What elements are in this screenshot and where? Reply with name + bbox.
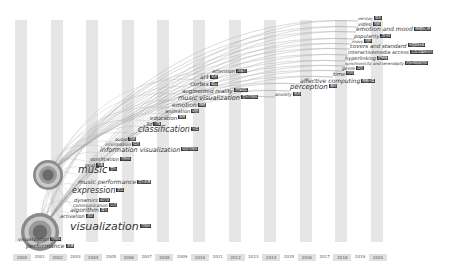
keyword-en: dynamics xyxy=(74,197,98,203)
keyword-zh: 类型 xyxy=(356,66,364,70)
keyword-zh: 电影 xyxy=(364,39,372,43)
keyword-node: hyperlinking超链接 xyxy=(345,56,388,61)
keyword-en: movy xyxy=(352,39,363,44)
keyword-en: art xyxy=(200,73,209,80)
keyword-zh: 情绪和心情 xyxy=(414,27,431,31)
keyword-node: visualization可视化 xyxy=(70,221,151,232)
keyword-en: visualization xyxy=(70,220,139,233)
keyword-node: animation动画 xyxy=(165,109,199,114)
keyword-en: affective computing xyxy=(300,77,360,84)
year-label: 2010 xyxy=(191,254,209,261)
keyword-node: 3d三维 xyxy=(146,122,161,127)
keyword-zh: 音频 xyxy=(128,137,136,141)
year-label: 2000 xyxy=(13,254,31,261)
keyword-zh: 艺术 xyxy=(210,75,218,79)
year-label: 2008 xyxy=(155,254,173,261)
year-label: 2004 xyxy=(84,254,102,261)
year-label: 2014 xyxy=(262,254,280,261)
year-label: 2012 xyxy=(227,254,245,261)
year-label: 2003 xyxy=(66,254,84,259)
keyword-node: communication交流 xyxy=(73,204,117,209)
keyword-node: education教育 xyxy=(150,116,186,122)
keyword-en: performance xyxy=(26,242,65,249)
year-label: 2009 xyxy=(173,254,191,259)
keyword-node: audio音频 xyxy=(115,138,136,143)
keyword-zh: 教育 xyxy=(178,115,186,119)
keyword-en: version xyxy=(358,16,373,21)
year-label: 2007 xyxy=(138,254,156,259)
keyword-node: attention注意力 xyxy=(212,69,247,74)
keyword-en: music performance xyxy=(78,178,136,185)
keyword-en: time xyxy=(333,71,345,77)
keyword-node: affective computing情感计算 xyxy=(300,78,375,84)
keyword-node: interactivemedia access交互式媒体访问 xyxy=(348,50,433,55)
year-label: 2017 xyxy=(316,254,334,259)
keyword-zh: 流行性 xyxy=(380,34,391,38)
year-label: 2018 xyxy=(333,254,351,261)
keyword-en: genre xyxy=(342,66,355,71)
keyword-zh: 可视化 xyxy=(140,224,151,228)
keyword-en: information xyxy=(105,142,131,147)
keyword-zh: 分类 xyxy=(191,127,199,131)
keyword-en: audio xyxy=(115,137,127,142)
keyword-en: hyperlinking xyxy=(345,55,376,61)
keyword-zh: 超链接 xyxy=(377,56,388,60)
year-label: 2015 xyxy=(280,254,298,259)
keyword-zh: 焦虑 xyxy=(293,92,301,96)
keyword-node: information信息 xyxy=(105,143,140,148)
keyword-zh: 皮层 xyxy=(210,82,218,86)
keyword-node: expression表达 xyxy=(72,187,124,195)
keyword-zh: 信息可视化 xyxy=(181,147,198,151)
year-label: 2019 xyxy=(351,254,369,259)
keyword-node: version版本 xyxy=(358,17,382,21)
keyword-zh: 节奏 xyxy=(96,163,104,167)
year-label: 2006 xyxy=(120,254,138,261)
keyword-node: beat节奏 xyxy=(85,164,104,169)
keyword-en: augmented reality xyxy=(182,88,233,94)
keyword-node: music performance音乐表演 xyxy=(78,179,151,185)
keyword-en: sonification xyxy=(90,156,119,162)
keyword-en: synchronicity and serendipity xyxy=(345,61,404,66)
keyword-zh: 三维 xyxy=(153,122,161,126)
keyword-zh: 可听化 xyxy=(120,157,131,161)
keyword-en: interactivemedia access xyxy=(348,49,409,55)
keyword-zh: 激活 xyxy=(86,214,94,218)
keyword-en: attention xyxy=(212,68,235,74)
keyword-zh: 动画 xyxy=(191,109,199,113)
keyword-zh: 版本 xyxy=(374,16,382,20)
year-label: 2020 xyxy=(369,254,387,261)
keyword-zh: 增强现实 xyxy=(234,88,248,92)
year-label: 2001 xyxy=(31,254,49,259)
keyword-node: popularity流行性 xyxy=(354,34,391,39)
keyword-en: education xyxy=(150,115,177,121)
keyword-node: anxiety焦虑 xyxy=(275,93,301,98)
keyword-zh: 音乐 xyxy=(109,167,117,171)
keyword-zh: 动力学 xyxy=(99,198,110,202)
keyword-en: cortex xyxy=(190,80,209,87)
keyword-zh: 交互式媒体访问 xyxy=(410,50,433,54)
keyword-node: art艺术 xyxy=(200,74,218,80)
keyword-zh: 交流 xyxy=(109,203,117,207)
keyword-node: covers and standard封面和标准 xyxy=(350,44,425,50)
timezone-map: visualization可视化visualization可视化performa… xyxy=(0,0,469,279)
keyword-node: time时间 xyxy=(333,72,354,78)
keyword-zh: 情绪 xyxy=(198,103,206,107)
keyword-en: anxiety xyxy=(275,92,292,97)
keyword-en: emotion xyxy=(172,101,197,108)
year-label: 2013 xyxy=(244,254,262,259)
keyword-node: information visualization信息可视化 xyxy=(100,147,198,154)
keyword-zh: 封面和标准 xyxy=(408,43,425,47)
keyword-node: emotion情绪 xyxy=(172,102,206,108)
year-label: 2002 xyxy=(49,254,67,261)
keyword-node: movy电影 xyxy=(352,40,372,44)
keyword-node: dynamics动力学 xyxy=(74,198,110,203)
keyword-en: video xyxy=(358,21,372,27)
keyword-en: animation xyxy=(165,108,190,114)
keyword-zh: 情感计算 xyxy=(361,79,375,83)
year-label: 2016 xyxy=(298,254,316,261)
keyword-zh: 感知 xyxy=(329,84,337,88)
keyword-node: activation激活 xyxy=(60,214,94,219)
keyword-en: music visualization xyxy=(178,94,240,102)
keyword-zh: 时间 xyxy=(346,71,354,75)
keyword-zh: 信息 xyxy=(132,142,140,146)
